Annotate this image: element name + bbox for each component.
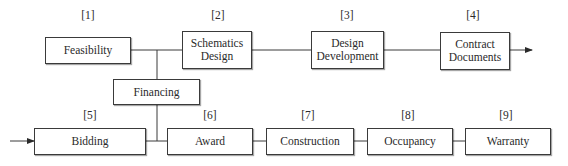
step-label-design-line1: Design	[331, 37, 364, 50]
step-label-bidding: Bidding	[71, 135, 108, 148]
step-number-8: [8]	[401, 109, 414, 121]
step-label-feasibility: Feasibility	[64, 44, 113, 57]
step-number-6: [6]	[203, 109, 216, 121]
step-label-occupancy: Occupancy	[384, 135, 436, 148]
step-label-award: Award	[195, 135, 225, 148]
step-box-financing: Financing	[113, 79, 200, 105]
step-box-feasibility: Feasibility	[45, 37, 131, 64]
step-number-5: [5]	[83, 109, 96, 121]
step-label-contract-line2: Documents	[449, 51, 501, 64]
step-number-9: [9]	[499, 109, 512, 121]
step-box-schematics-design: Schematics Design	[182, 31, 252, 69]
step-box-design-development: Design Development	[311, 31, 384, 69]
step-box-construction: Construction	[266, 128, 354, 155]
step-label-design-line2: Development	[317, 50, 379, 63]
step-number-7: [7]	[301, 109, 314, 121]
step-box-warranty: Warranty	[465, 128, 551, 155]
step-label-schematics-line1: Schematics	[191, 37, 243, 50]
step-label-construction: Construction	[280, 135, 339, 148]
step-number-4: [4]	[466, 9, 479, 21]
step-number-3: [3]	[340, 9, 353, 21]
step-box-occupancy: Occupancy	[367, 128, 453, 155]
step-number-1: [1]	[81, 9, 94, 21]
step-label-financing: Financing	[134, 86, 180, 99]
step-number-2: [2]	[211, 9, 224, 21]
step-box-award: Award	[167, 128, 253, 155]
step-label-schematics-line2: Design	[201, 50, 234, 63]
step-box-contract-documents: Contract Documents	[440, 32, 510, 70]
step-label-warranty: Warranty	[487, 135, 530, 148]
step-box-bidding: Bidding	[34, 128, 146, 155]
step-label-contract-line1: Contract	[455, 38, 495, 51]
